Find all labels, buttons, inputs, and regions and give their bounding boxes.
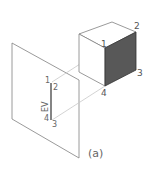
cube-label-1: 1 <box>101 39 107 49</box>
plane-label-3: 3 <box>52 120 57 129</box>
plane-label-1: 1 <box>45 76 50 85</box>
projector-line-bottom <box>52 86 105 120</box>
orthographic-projection-diagram: 1 2 3 4 1 2 4 3 EV (a) <box>0 0 153 172</box>
cube-label-2: 2 <box>134 21 140 31</box>
plane-label-2: 2 <box>53 83 58 92</box>
projection-plane <box>12 43 79 158</box>
edge-view-label: EV <box>41 101 50 112</box>
cube-label-4: 4 <box>101 88 107 98</box>
cube <box>79 22 136 86</box>
cube-label-3: 3 <box>137 68 143 78</box>
figure-caption: (a) <box>88 147 103 160</box>
plane-label-4: 4 <box>44 114 49 123</box>
